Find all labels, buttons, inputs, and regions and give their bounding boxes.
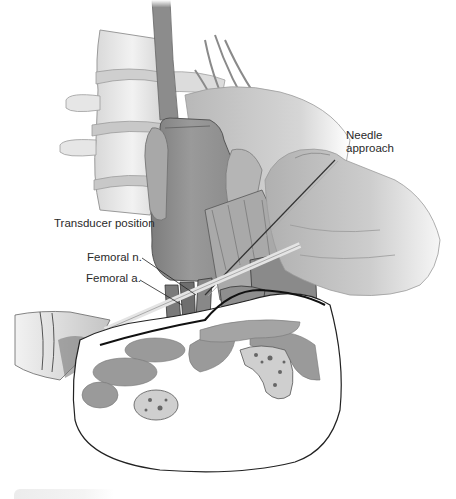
label-needle-approach: Needle approach	[346, 129, 394, 155]
label-needle-line2: approach	[346, 142, 394, 155]
caption-bar	[14, 489, 114, 499]
label-needle-line1: Needle	[346, 129, 394, 142]
label-femoral-nerve: Femoral n.	[87, 251, 142, 264]
femoral-block-illustration	[0, 0, 456, 499]
hand-holding-needle	[265, 149, 440, 295]
label-transducer-position: Transducer position	[54, 217, 155, 230]
label-femoral-artery: Femoral a.	[86, 272, 141, 285]
